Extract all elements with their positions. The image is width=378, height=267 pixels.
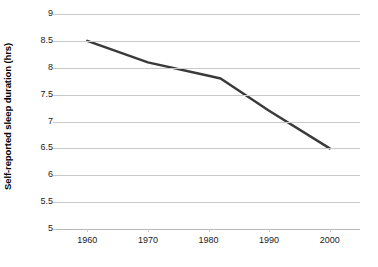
y-tick-label-8: 8 xyxy=(23,63,53,72)
x-tick-label-1990: 1990 xyxy=(244,236,294,245)
y-axis-title-text: Self-reported sleep duration (hrs) xyxy=(3,42,14,189)
x-axis-line xyxy=(53,229,360,230)
y-tick-label-7: 7 xyxy=(23,117,53,126)
y-axis-tick-labels: 55.566.577.588.59 xyxy=(20,0,53,267)
y-tick-label-5.5: 5.5 xyxy=(23,197,53,206)
gridline-y-9 xyxy=(57,14,360,15)
gridline-y-6.5 xyxy=(57,148,360,149)
y-tick-mark-6 xyxy=(53,175,57,176)
x-tick-label-1980: 1980 xyxy=(184,236,234,245)
x-tick-mark-1980 xyxy=(209,229,210,232)
x-tick-mark-2000 xyxy=(330,229,331,232)
y-tick-label-6: 6 xyxy=(23,170,53,179)
y-tick-mark-9 xyxy=(53,14,57,15)
plot-area xyxy=(57,14,360,229)
y-tick-label-8.5: 8.5 xyxy=(23,36,53,45)
sleep-duration-line-chart: Self-reported sleep duration (hrs) 55.56… xyxy=(0,0,378,267)
y-tick-mark-8.5 xyxy=(53,41,57,42)
gridline-y-7.5 xyxy=(57,95,360,96)
y-tick-mark-7 xyxy=(53,122,57,123)
y-axis-title: Self-reported sleep duration (hrs) xyxy=(0,0,16,232)
y-tick-label-5: 5 xyxy=(23,224,53,233)
x-tick-label-1970: 1970 xyxy=(123,236,173,245)
y-tick-mark-7.5 xyxy=(53,95,57,96)
gridline-y-8.5 xyxy=(57,41,360,42)
x-tick-mark-1960 xyxy=(87,229,88,232)
x-tick-label-1960: 1960 xyxy=(62,236,112,245)
gridline-y-5.5 xyxy=(57,202,360,203)
y-tick-label-6.5: 6.5 xyxy=(23,143,53,152)
y-tick-mark-6.5 xyxy=(53,148,57,149)
y-tick-label-9: 9 xyxy=(23,9,53,18)
y-tick-label-7.5: 7.5 xyxy=(23,90,53,99)
gridline-y-8 xyxy=(57,68,360,69)
y-tick-mark-5 xyxy=(53,229,57,230)
y-tick-mark-5.5 xyxy=(53,202,57,203)
x-tick-mark-1970 xyxy=(148,229,149,232)
gridline-y-7 xyxy=(57,122,360,123)
y-tick-mark-8 xyxy=(53,68,57,69)
gridline-y-6 xyxy=(57,175,360,176)
x-tick-mark-1990 xyxy=(269,229,270,232)
x-tick-label-2000: 2000 xyxy=(305,236,355,245)
